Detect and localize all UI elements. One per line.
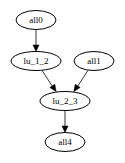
node-label: all0 [29,15,43,25]
node-lu_2_3[interactable]: lu_2_3 [40,92,90,111]
dependency-graph: all0 lu_1_2 all1 lu_2_3 all4 [0,0,125,163]
arrowhead-icon [62,126,68,133]
edge-lu_2_3-all4 [62,111,68,133]
arrowhead-icon [74,84,80,91]
node-lu_1_2[interactable]: lu_1_2 [11,52,61,71]
arrowhead-icon [50,84,56,91]
edges [33,30,88,133]
node-all1[interactable]: all1 [74,52,114,71]
nodes: all0 lu_1_2 all1 lu_2_3 all4 [11,11,114,152]
edge-all1-lu_2_3 [74,70,88,91]
node-all4[interactable]: all4 [45,133,85,152]
edge-all0-lu_1_2 [33,30,39,52]
node-label: all4 [58,137,72,147]
node-all0[interactable]: all0 [16,11,56,30]
node-label: lu_1_2 [23,56,48,66]
node-label: all1 [87,56,101,66]
edge-lu_1_2-lu_2_3 [42,70,56,91]
node-label: lu_2_3 [52,96,78,106]
arrowhead-icon [33,45,39,52]
